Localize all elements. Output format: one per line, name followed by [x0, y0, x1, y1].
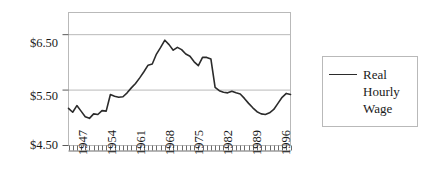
- legend-entry-label: Real Hourly Wage: [363, 66, 417, 117]
- y-tick-label-650: $6.50: [12, 36, 58, 51]
- x-tick-label-1947: 1947: [76, 130, 91, 155]
- legend-entry: Real Hourly Wage: [329, 66, 417, 117]
- real-hourly-wage-chart: $6.50 $5.50 $4.50 1947 1954 1961 1968 19…: [0, 0, 310, 196]
- x-tick-label-1968: 1968: [163, 130, 178, 155]
- y-axis-ticks: [63, 35, 69, 146]
- x-tick-label-1982: 1982: [221, 130, 236, 155]
- x-tick-label-1975: 1975: [192, 130, 207, 155]
- plot-frame: [69, 13, 291, 146]
- chart-legend: Real Hourly Wage: [322, 56, 418, 127]
- y-tick-label-550: $5.50: [12, 89, 58, 104]
- y-tick-label-450: $4.50: [12, 138, 58, 153]
- x-tick-label-1954: 1954: [105, 130, 120, 155]
- x-tick-label-1989: 1989: [250, 130, 265, 155]
- legend-line-swatch-icon: [329, 74, 357, 75]
- x-tick-label-1961: 1961: [134, 130, 149, 155]
- x-tick-label-1996: 1996: [279, 130, 294, 155]
